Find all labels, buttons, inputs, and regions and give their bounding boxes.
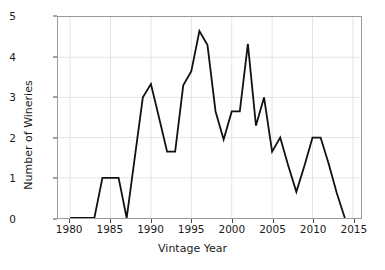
plot-area [57,16,362,219]
y-tick-label: 4 [0,51,16,62]
x-axis-title: Vintage Year [0,243,385,254]
y-tick-label: 5 [0,11,16,22]
y-tick-label: 0 [0,214,16,225]
y-tick-label: 2 [0,133,16,144]
y-axis-title: Number of Wineries [23,55,34,215]
series-line [70,31,345,218]
wineries-line-series [58,17,361,218]
x-tick-label: 2015 [324,224,384,235]
y-tick-label: 3 [0,92,16,103]
chart-figure: Number of Wineries 012345 19801985199019… [0,0,385,270]
y-tick-label: 1 [0,173,16,184]
